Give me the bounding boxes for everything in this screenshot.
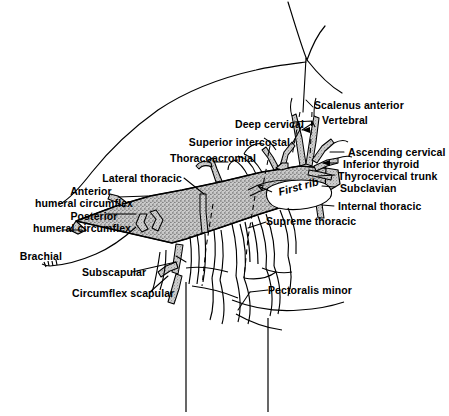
label-anterior: Anterior [36,185,146,198]
label-scalenus-anterior: Scalenus anterior [314,99,404,112]
label-supreme-thoracic: Supreme thoracic [266,215,356,228]
label-circumflex-scapular: Circumflex scapular [72,287,174,300]
label-inferior-thyroid: Inferior thyroid [343,158,419,171]
label-ascending-cervical: Ascending cervical [348,146,446,159]
label-subclavian: Subclavian [340,182,396,195]
label-subscapular: Subscapular [82,266,146,279]
label-vertebral: Vertebral [322,114,368,127]
label-posterior-humeral-circumflex: humeral circumflex [20,222,144,235]
label-superior-intercostal: Superior intercostal [130,136,290,149]
label-deep-cervical: Deep cervical [158,118,304,131]
pectoralis-minor-outline [232,300,344,330]
superior-intercostal-artery [262,147,279,170]
label-thyrocervical-trunk: Thyrocervical trunk [338,170,437,183]
shoulder-outline [307,60,342,93]
label-lateral-thoracic: Lateral thoracic [60,172,182,185]
leader-pectoralis-minor [250,290,268,292]
label-anterior-humeral-circumflex: humeral circumflex [22,197,146,210]
leader-scalenus-anterior [306,100,313,107]
label-posterior: Posterior [42,210,146,223]
label-thoracoacromial: Thoracoacromial [104,152,256,165]
supreme-thoracic-group [245,222,258,264]
label-internal-thoracic: Internal thoracic [338,200,421,213]
costocervical-trunk [276,163,288,170]
label-pectoralis-minor: Pectoralis minor [268,284,352,297]
label-brachial: Brachial [0,250,62,263]
leader-internal-thoracic [322,205,334,206]
anatomy-figure: Scalenus anterior Vertebral Ascending ce… [0,0,449,416]
neck-outline [288,2,325,60]
scalenus-fascia-line [303,58,306,112]
trunk-lower-outline [186,282,268,412]
